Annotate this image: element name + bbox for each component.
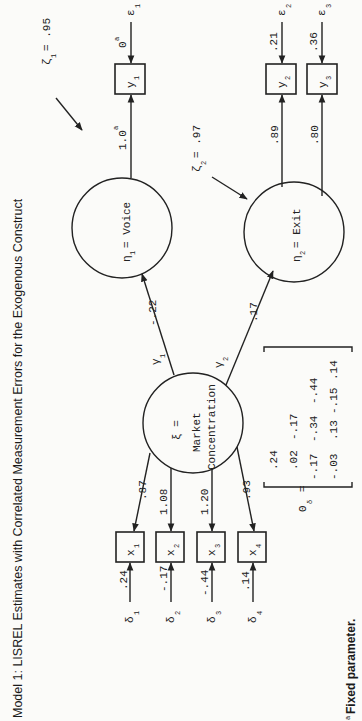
svg-text:.24: .24 <box>268 450 280 470</box>
svg-text:.13: .13 <box>328 420 340 440</box>
svg-text:.17: .17 <box>248 302 260 322</box>
y1-label: y 1 <box>125 76 141 88</box>
svg-text:ζ: ζ <box>41 58 53 65</box>
svg-text:Concentration: Concentration <box>206 384 218 470</box>
svg-text:1: 1 <box>159 354 167 358</box>
svg-text:δ: δ <box>247 616 259 623</box>
svg-text:.21: .21 <box>268 32 280 52</box>
svg-text:.14: .14 <box>328 360 340 380</box>
svg-text:Θ: Θ <box>297 505 309 512</box>
svg-text:.14: .14 <box>240 571 252 591</box>
svg-text:-.17: -.17 <box>158 566 170 592</box>
svg-text:ξ =: ξ = <box>171 420 183 440</box>
svg-text:δ: δ <box>124 616 136 623</box>
loading-y1-label: 1.0 a <box>112 126 129 150</box>
svg-text:x: x <box>125 549 137 556</box>
svg-text:1: 1 <box>133 544 141 548</box>
svg-text:γ: γ <box>150 358 162 365</box>
svg-text:ε: ε <box>316 9 328 16</box>
xi-label-line1: Market <box>191 412 203 452</box>
zeta2-label: ζ 2 = .97 <box>191 125 208 172</box>
svg-text:y: y <box>276 81 288 88</box>
epsilon3-label: ε 3 <box>316 4 333 16</box>
eta1-label: η 1 = Voice <box>121 202 137 262</box>
svg-text:4: 4 <box>256 611 264 615</box>
x1-label: x 1 <box>125 544 141 556</box>
svg-text:.36: .36 <box>308 32 320 52</box>
svg-text:1: 1 <box>134 4 142 8</box>
svg-text:3: 3 <box>325 4 333 8</box>
svg-text:2: 2 <box>173 544 181 548</box>
svg-text:.02: .02 <box>288 450 300 470</box>
svg-text:2: 2 <box>299 251 307 255</box>
svg-text:Market: Market <box>191 412 203 452</box>
loading-y3-label: .80 <box>309 125 321 145</box>
zeta1-label: ζ 1 = .95 <box>41 18 58 65</box>
svg-text:3: 3 <box>215 611 223 615</box>
svg-text:γ: γ <box>213 361 225 368</box>
svg-text:-.34: -.34 <box>308 415 320 442</box>
delta4-label: δ 4 <box>247 611 264 623</box>
svg-text:.80: .80 <box>309 125 321 145</box>
svg-text:ζ: ζ <box>191 165 203 172</box>
svg-text:a: a <box>113 37 121 41</box>
svg-text:-.15: -.15 <box>328 388 340 414</box>
gamma1-symbol: γ 1 <box>150 354 167 365</box>
gamma2-symbol: γ 2 <box>213 357 230 368</box>
delta3-value: -.44 <box>199 569 211 596</box>
svg-text:-.44: -.44 <box>308 377 320 404</box>
svg-text:x: x <box>165 549 177 556</box>
figure-title: Model 1: LISREL Estimates with Correlate… <box>11 198 25 718</box>
svg-text:2: 2 <box>285 4 293 8</box>
loading-y2-label: .89 <box>269 125 281 145</box>
svg-text:0: 0 <box>117 41 129 48</box>
gamma2-arrow <box>226 271 273 385</box>
svg-text:y: y <box>317 81 329 88</box>
svg-text:1.0: 1.0 <box>117 130 129 150</box>
svg-text:1: 1 <box>133 76 141 80</box>
theta-delta-label: Θ δ = <box>297 485 314 512</box>
svg-text:1.08: 1.08 <box>158 489 170 515</box>
svg-text:.87: .87 <box>137 480 149 500</box>
y3-label: y 3 <box>317 76 333 88</box>
epsilon1-value: 0 a <box>113 37 129 48</box>
svg-text:ε: ε <box>276 9 288 16</box>
svg-text:-.17: -.17 <box>288 414 300 440</box>
svg-text:2: 2 <box>174 611 182 615</box>
epsilon2-label: ε 2 <box>276 4 293 16</box>
svg-text:-.44: -.44 <box>199 569 211 596</box>
y2-label: y 2 <box>276 76 292 88</box>
delta1-value: .24 <box>118 570 130 590</box>
svg-text:1: 1 <box>129 251 137 255</box>
footnote: a Fixed parameter. <box>344 619 358 720</box>
zeta2-arrow <box>212 177 247 199</box>
loading-x1-label: .87 <box>137 480 149 500</box>
svg-text:ε: ε <box>125 9 137 16</box>
gamma1-value: -.22 <box>147 300 159 326</box>
svg-text:3: 3 <box>325 76 333 80</box>
delta4-value: .14 <box>240 571 252 591</box>
footnote-text: Fixed parameter. <box>344 619 358 714</box>
svg-text:-.22: -.22 <box>147 300 159 326</box>
svg-text:.24: .24 <box>118 570 130 590</box>
zeta1-arrow <box>56 98 82 130</box>
svg-text:-.03: -.03 <box>328 454 340 480</box>
xi-symbol: ξ = <box>171 420 183 440</box>
svg-text:1.20: 1.20 <box>199 489 211 515</box>
svg-text:= Voice: = Voice <box>121 202 133 248</box>
epsilon3-value: .36 <box>308 32 320 52</box>
svg-text:x: x <box>206 549 218 556</box>
svg-text:a: a <box>112 126 120 130</box>
svg-text:x: x <box>247 549 259 556</box>
svg-text:.93: .93 <box>241 480 253 500</box>
x2-label: x 2 <box>165 544 181 556</box>
svg-text:2: 2 <box>284 76 292 80</box>
matrix-row-1: .24 <box>268 450 280 470</box>
svg-text:2: 2 <box>222 357 230 361</box>
x3-label: x 3 <box>206 544 222 556</box>
matrix-row-3: -.17 -.34 -.44 <box>308 377 320 480</box>
delta2-value: -.17 <box>158 566 170 592</box>
svg-text:= .97: = .97 <box>191 125 203 158</box>
x4-label: x 4 <box>247 544 263 556</box>
xi-label-line2: Concentration <box>206 384 218 470</box>
